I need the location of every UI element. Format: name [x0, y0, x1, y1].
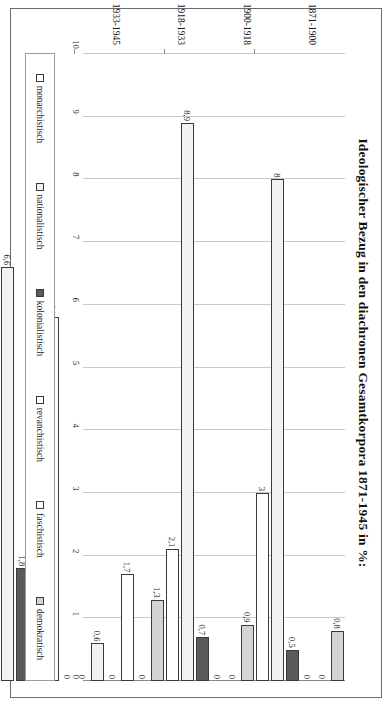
bar-value-label: 0 [108, 672, 118, 679]
bar-row: 0,7 [196, 54, 209, 681]
bar-row: 0 [106, 54, 119, 681]
category-label: 1933-1945 [83, 9, 149, 51]
bar-nationalistisch[interactable] [271, 179, 284, 681]
legend-item-demokratisch[interactable]: demokratisch [35, 597, 45, 660]
legend-item-faschistisch[interactable]: faschistisch [35, 501, 45, 557]
bar-row: 0 [301, 54, 314, 681]
legend-swatch-icon [36, 501, 44, 509]
bar-row: 0 [211, 54, 224, 681]
bar-value-label: 6,6 [3, 252, 13, 266]
bar-value-label: 1,7 [123, 559, 133, 573]
bar-value-label: 0,7 [198, 622, 208, 636]
bar-monarchistisch[interactable] [256, 493, 269, 681]
bar-group: 0,8000,583 [255, 54, 345, 681]
legend-label: revanchistisch [35, 408, 45, 462]
value-tick-label: 8 [71, 172, 81, 176]
bar-nationalistisch[interactable] [91, 643, 104, 681]
bar-value-label: 0,8 [333, 615, 343, 629]
bar-kolonialistisch[interactable] [286, 650, 299, 681]
bar-value-label: 0,9 [243, 609, 253, 623]
bar-row: 1,3 [151, 54, 164, 681]
bar-value-label: 0,5 [288, 634, 298, 648]
legend-swatch-icon [36, 289, 44, 297]
legend-swatch-icon [36, 396, 44, 404]
value-tick-label: 2 [71, 549, 81, 553]
legend-label: monarchistisch [35, 86, 45, 144]
legend-item-nationalistisch[interactable]: nationalistisch [35, 183, 45, 250]
bar-demokratisch[interactable] [151, 600, 164, 682]
legend-swatch-icon [36, 183, 44, 191]
value-tick-label: 10 [71, 40, 81, 49]
legend-swatch-icon [36, 597, 44, 605]
value-tick-label: 9 [71, 109, 81, 113]
bar-row: 3 [256, 54, 269, 681]
bar-row: 2,1 [166, 54, 179, 681]
bar-demokratisch[interactable] [241, 625, 254, 681]
value-axis: 109876543210 [63, 53, 81, 681]
bar-group: 0,9000,78,92,1 [165, 54, 255, 681]
bar-row: 0 [136, 54, 149, 681]
bar-value-label: 8 [273, 170, 283, 177]
bar-row: 8,9 [181, 54, 194, 681]
bar-value-label: 8,9 [183, 107, 193, 121]
bar-value-label: 0,6 [93, 628, 103, 642]
bar-value-label: 0 [318, 672, 328, 679]
value-tick-label: 6 [71, 298, 81, 302]
rotated-chart-canvas: Ideologischer Bezug in den diachronen Ge… [0, 0, 392, 708]
bar-row: 6,6 [1, 54, 14, 681]
legend-label: kolonialistisch [35, 301, 45, 356]
bar-row: 0 [226, 54, 239, 681]
value-tick-label: 0 [71, 675, 81, 679]
bar-value-label: 0 [138, 672, 148, 679]
legend-item-monarchistisch[interactable]: monarchistisch [35, 74, 45, 144]
legend-item-revanchistisch[interactable]: revanchistisch [35, 396, 45, 462]
bar-value-label: 0 [303, 672, 313, 679]
bar-nationalistisch[interactable] [1, 267, 14, 681]
bar-revanchistisch[interactable] [121, 574, 134, 681]
chart-title: Ideologischer Bezug in den diachronen Ge… [355, 9, 371, 697]
bar-nationalistisch[interactable] [181, 123, 194, 681]
bar-value-label: 0 [213, 672, 223, 679]
bar-row: 1,7 [121, 54, 134, 681]
bar-row: 0,5 [286, 54, 299, 681]
legend-item-kolonialistisch[interactable]: kolonialistisch [35, 289, 45, 356]
value-tick-label: 1 [71, 612, 81, 616]
bar-value-label: 3 [258, 484, 268, 491]
category-label: 1918-1933 [149, 9, 215, 51]
bar-row: 0,8 [331, 54, 344, 681]
value-tick-label: 7 [71, 235, 81, 239]
bar-monarchistisch[interactable] [166, 549, 179, 681]
bar-value-label: 1,3 [153, 584, 163, 598]
bar-row: 8 [271, 54, 284, 681]
value-tick-label: 4 [71, 423, 81, 427]
bar-kolonialistisch[interactable] [196, 637, 209, 681]
bar-row: 0 [316, 54, 329, 681]
legend-label: nationalistisch [35, 195, 45, 250]
value-tick-label: 3 [71, 486, 81, 490]
bar-row: 0,9 [241, 54, 254, 681]
category-axis: 1871-19001900-19181918-19331933-1945 [83, 9, 345, 51]
bar-row: 0,6 [91, 54, 104, 681]
chart-legend: monarchistischnationalistischkolonialist… [25, 53, 55, 681]
legend-label: demokratisch [35, 609, 45, 660]
bar-value-label: 2,1 [168, 534, 178, 548]
plot-area: 0,8000,5830,9000,78,92,11,301,700,6005,8… [83, 53, 345, 681]
bar-groups: 0,8000,5830,9000,78,92,11,301,700,6005,8… [83, 54, 345, 681]
value-tick-label: 5 [71, 361, 81, 365]
bar-demokratisch[interactable] [331, 631, 344, 681]
bar-group: 1,301,700,60 [75, 54, 165, 681]
chart-frame: Ideologischer Bezug in den diachronen Ge… [10, 8, 382, 698]
category-label: 1900-1918 [214, 9, 280, 51]
legend-swatch-icon [36, 74, 44, 82]
category-label: 1871-1900 [280, 9, 346, 51]
legend-label: faschistisch [35, 513, 45, 557]
bar-value-label: 0 [228, 672, 238, 679]
